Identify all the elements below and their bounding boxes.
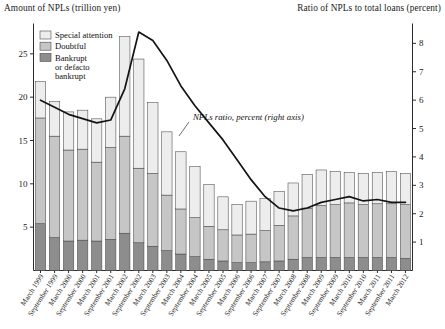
bar-segment <box>232 205 242 235</box>
bar-segment <box>400 205 410 259</box>
bar-segment <box>162 251 172 271</box>
bar-segment <box>316 170 326 206</box>
bar-segment <box>204 185 214 227</box>
legend-label-cont: bankrupt <box>55 71 86 81</box>
bar-segment <box>218 197 228 230</box>
bar-group <box>77 110 87 270</box>
bar-segment <box>316 206 326 258</box>
bar-segment <box>386 204 396 258</box>
bar-segment <box>162 132 172 195</box>
bar-group <box>260 199 270 271</box>
left-tick-label-25: 25 <box>19 49 29 59</box>
bar-group <box>330 172 340 271</box>
right-tick-label-3: 3 <box>419 180 424 190</box>
bar-segment <box>302 174 312 208</box>
bar-group <box>288 183 298 271</box>
bar-segment <box>176 254 186 270</box>
bar-segment <box>232 263 242 271</box>
bar-group <box>246 201 256 270</box>
bar-segment <box>400 258 410 270</box>
bar-segment <box>176 152 186 209</box>
bar-segment <box>246 234 256 263</box>
bar-segment <box>218 230 228 261</box>
bar-segment <box>162 195 172 250</box>
bar-segment <box>218 261 228 271</box>
bar-segment <box>77 149 87 240</box>
bar-segment <box>91 241 101 270</box>
bar-segment <box>77 240 87 270</box>
bar-segment <box>134 59 144 168</box>
plot-area: 51015202512345678March 1999September 199… <box>0 0 445 329</box>
bar-segment <box>344 258 354 271</box>
bar-group <box>232 205 242 271</box>
bar-segment <box>386 258 396 271</box>
bar-segment <box>246 201 256 234</box>
bar-segment <box>49 238 59 271</box>
npl-chart: Amount of NPLs (trillion yen) Ratio of N… <box>0 0 445 329</box>
right-tick-label-1: 1 <box>419 237 424 247</box>
bar-segment <box>35 118 45 224</box>
right-tick-label-5: 5 <box>419 124 424 134</box>
bar-group <box>91 119 101 271</box>
bar-segment <box>134 243 144 271</box>
bar-segment <box>274 225 284 261</box>
bar-group <box>316 170 326 271</box>
bar-segment <box>204 259 214 270</box>
bar-group <box>218 197 228 271</box>
bar-segment <box>274 261 284 271</box>
bar-group <box>106 97 116 270</box>
right-tick-label-8: 8 <box>419 38 424 48</box>
bar-segment <box>35 224 45 271</box>
bar-segment <box>302 258 312 271</box>
bar-segment <box>148 173 158 246</box>
bar-segment <box>302 208 312 257</box>
bar-segment <box>246 263 256 271</box>
bar-segment <box>63 241 73 270</box>
bar-group <box>148 102 158 270</box>
left-tick-label-20: 20 <box>19 92 29 102</box>
bar-segment <box>260 231 270 262</box>
bar-segment <box>288 259 298 270</box>
bar-segment <box>49 136 59 237</box>
legend-swatch <box>40 53 51 61</box>
bar-segment <box>106 147 116 239</box>
bar-segment <box>344 203 354 258</box>
bar-segment <box>148 102 158 173</box>
bar-group <box>274 192 284 271</box>
right-tick-label-6: 6 <box>419 95 424 105</box>
bar-group <box>344 173 354 271</box>
bar-segment <box>91 162 101 241</box>
right-tick-label-7: 7 <box>419 67 424 77</box>
ratio-annotation: NPLs ratio, percent (right axis) <box>192 112 304 122</box>
bar-segment <box>190 218 200 257</box>
bar-group <box>302 174 312 270</box>
bar-segment <box>372 204 382 258</box>
bar-group <box>400 173 410 270</box>
bar-segment <box>260 262 270 271</box>
bar-group <box>190 167 200 271</box>
bar-segment <box>232 235 242 263</box>
bar-group <box>358 173 368 270</box>
bar-segment <box>120 233 130 270</box>
bar-segment <box>358 205 368 258</box>
legend-swatch <box>40 42 51 50</box>
left-tick-label-15: 15 <box>19 136 29 146</box>
bar-segment <box>176 209 186 254</box>
bar-segment <box>63 150 73 241</box>
bar-segment <box>330 258 340 271</box>
bar-segment <box>120 136 130 233</box>
bar-group <box>372 173 382 271</box>
bar-segment <box>400 173 410 204</box>
legend-label: Doubtful <box>55 41 87 51</box>
left-tick-label-10: 10 <box>19 179 29 189</box>
bar-group <box>386 172 396 271</box>
bar-segment <box>330 205 340 258</box>
bar-segment <box>148 246 158 270</box>
bar-segment <box>260 199 270 231</box>
bar-group <box>35 82 45 271</box>
bar-segment <box>204 226 214 259</box>
left-tick-label-5: 5 <box>23 222 28 232</box>
bar-group <box>63 112 73 271</box>
bar-segment <box>106 97 116 147</box>
bar-segment <box>190 167 200 218</box>
